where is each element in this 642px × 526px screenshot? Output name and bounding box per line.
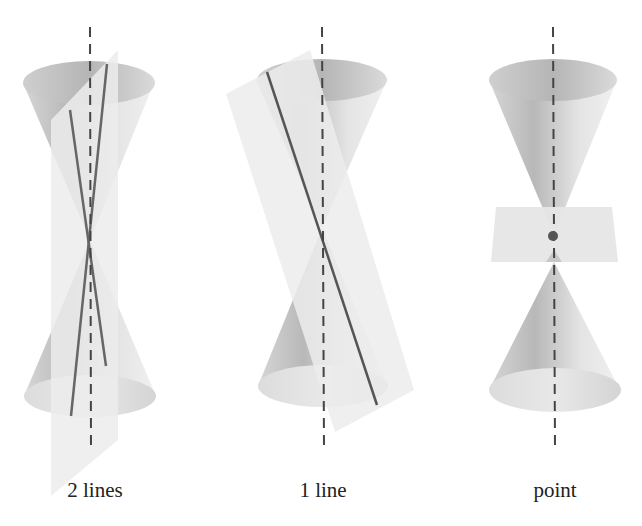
intersection-point: [548, 231, 558, 241]
panel-one-line: [226, 27, 414, 450]
cutting-plane: [226, 50, 414, 432]
caption-point: point: [533, 478, 576, 503]
caption-one-line: 1 line: [299, 478, 346, 503]
caption-two-lines: 2 lines: [67, 478, 122, 503]
panel-point: [489, 27, 621, 450]
conic-diagram: [0, 0, 642, 526]
panel-two-lines: [23, 27, 156, 496]
